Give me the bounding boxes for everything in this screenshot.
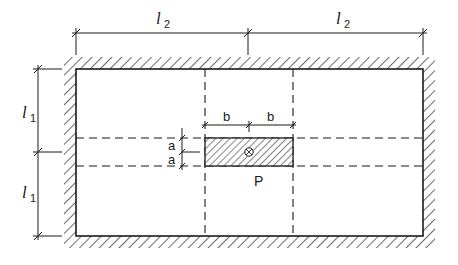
dimension-left xyxy=(33,65,62,240)
dimension-top xyxy=(72,28,427,55)
label-l2-left: l xyxy=(156,9,161,28)
label-l2-right-subscript: 2 xyxy=(344,18,350,30)
label-l1-bottom: l xyxy=(22,183,27,202)
patch-load xyxy=(205,138,293,166)
label-l1-top-subscript: 1 xyxy=(30,112,36,124)
label-a-bottom: a xyxy=(168,152,176,167)
label-patch-load: P xyxy=(254,173,263,189)
label-b-left: b xyxy=(223,109,230,124)
label-a-top: a xyxy=(168,138,176,153)
label-l2-right: l xyxy=(336,9,341,28)
label-b-right: b xyxy=(267,109,274,124)
patch-center-marker-icon xyxy=(245,148,253,156)
label-l1-top: l xyxy=(22,103,27,122)
label-l2-left-subscript: 2 xyxy=(164,18,170,30)
slab-diagram: l 2 l 2 l 1 l 1 b b a a P xyxy=(0,0,458,265)
diagram-svg: l 2 l 2 l 1 l 1 b b a a P xyxy=(0,0,458,265)
label-l1-bottom-subscript: 1 xyxy=(30,192,36,204)
